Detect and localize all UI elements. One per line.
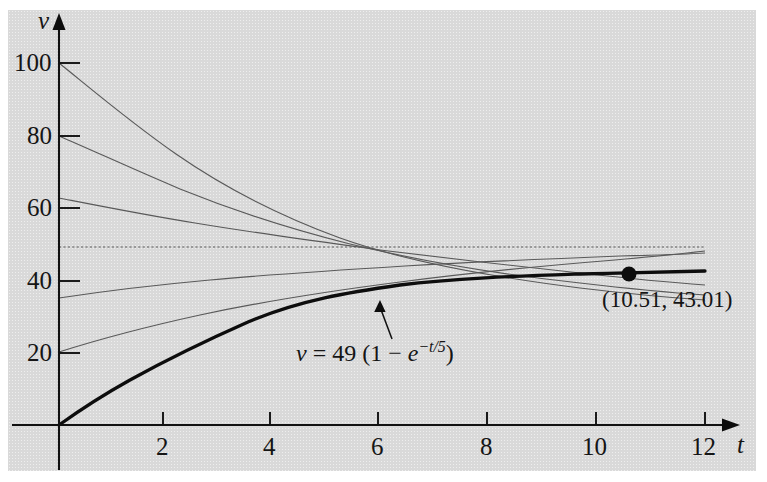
y-tick-label-40: 40 [27, 268, 52, 293]
x-tick-label-4: 4 [263, 434, 276, 459]
x-tick-label-2: 2 [156, 434, 169, 459]
x-tick-label-12: 12 [691, 434, 716, 459]
axes-group [12, 13, 740, 470]
x-axis-arrowhead [722, 418, 740, 431]
x-tick-label-6: 6 [371, 434, 384, 459]
equation-middle: = 49 (1 − [307, 340, 408, 366]
y-axis-arrowhead [53, 13, 66, 30]
equation-close: ) [446, 340, 454, 366]
chart-canvas [0, 0, 767, 482]
y-tick-label-20: 20 [27, 340, 52, 365]
equation-lhs: v [296, 340, 307, 366]
y-axis-label: v [38, 8, 49, 33]
curve-equation-label: v = 49 (1 − e−t/5) [296, 341, 454, 365]
equation-base: e [408, 340, 419, 366]
y-tick-label-60: 60 [27, 195, 52, 220]
solution-curve-v0-80 [59, 136, 705, 295]
y-tick-label-100: 100 [14, 50, 52, 75]
equation-exponent: −t/5 [418, 338, 445, 355]
equation-pointer-arrow [374, 300, 392, 339]
marked-point-label: (10.51, 43.01) [602, 288, 732, 311]
y-tick-label-80: 80 [27, 123, 52, 148]
x-tick-label-8: 8 [480, 434, 493, 459]
marked-point-dot [622, 267, 637, 282]
direction-field-figure: 100 80 60 40 20 2 4 6 8 10 12 v t v = 49… [0, 0, 767, 482]
x-tick-label-10: 10 [582, 434, 607, 459]
solution-curve-v0-100 [59, 63, 705, 300]
x-axis-label: t [737, 432, 744, 457]
